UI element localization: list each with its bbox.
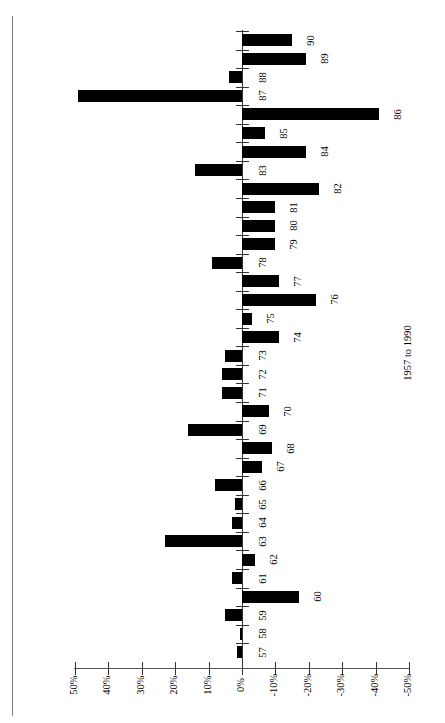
category-axis-tick (236, 365, 249, 366)
category-axis-tick (236, 142, 249, 143)
category-axis-tick (236, 124, 249, 125)
category-axis-tick (236, 643, 249, 644)
category-axis-tick (236, 254, 249, 255)
category-axis-tick (236, 179, 249, 180)
bar (242, 53, 306, 65)
value-axis-tick-label: -40% (369, 665, 383, 705)
category-axis-tick (236, 383, 249, 384)
category-axis-tick (236, 346, 249, 347)
value-axis-tick-label: 20% (168, 665, 182, 705)
category-axis-tick (236, 161, 249, 162)
category-label: 66 (257, 470, 270, 500)
bar (242, 146, 306, 158)
category-axis-tick (236, 291, 249, 292)
bar (222, 368, 242, 380)
category-label: 59 (257, 600, 270, 630)
category-axis-tick (236, 606, 249, 607)
bar (195, 164, 242, 176)
value-axis-tick-label: -10% (268, 665, 282, 705)
category-axis-tick (236, 588, 249, 589)
category-label: 73 (257, 341, 270, 371)
bar (242, 183, 319, 195)
bar (78, 90, 242, 102)
category-label: 69 (257, 415, 270, 445)
category-axis-tick (236, 513, 249, 514)
category-label: 82 (331, 174, 344, 204)
value-axis-tick-label: -20% (302, 665, 316, 705)
bar (242, 294, 316, 306)
category-label: 83 (257, 155, 270, 185)
category-label: 60 (311, 582, 324, 612)
category-label: 90 (305, 25, 318, 55)
category-label: 81 (288, 192, 301, 222)
value-axis-tick-label: 30% (135, 665, 149, 705)
bar (222, 387, 242, 399)
value-axis-tick-label: 0% (235, 665, 249, 705)
category-axis-tick (236, 31, 249, 32)
category-label: 74 (291, 322, 304, 352)
category-axis-tick (236, 235, 249, 236)
category-axis-tick (236, 439, 249, 440)
bar (237, 646, 242, 658)
value-axis-tick-label: -30% (335, 665, 349, 705)
value-axis-tick-label: 50% (68, 665, 82, 705)
category-axis-tick (236, 68, 249, 69)
category-label: 75 (265, 304, 278, 334)
bar (225, 350, 242, 362)
bar (212, 257, 242, 269)
category-label: 88 (257, 62, 270, 92)
bar (232, 517, 242, 529)
category-axis-tick (236, 402, 249, 403)
bar (235, 498, 242, 510)
bar (165, 535, 242, 547)
category-label: 86 (392, 99, 405, 129)
category-axis-tick (236, 458, 249, 459)
category-label: 77 (291, 266, 304, 296)
category-label: 70 (281, 396, 294, 426)
bar (215, 479, 242, 491)
category-label: 84 (318, 137, 331, 167)
category-axis-tick (236, 495, 249, 496)
bar (232, 572, 242, 584)
category-axis-tick (236, 476, 249, 477)
category-label: 78 (257, 248, 270, 278)
category-axis-tick (236, 217, 249, 218)
category-axis-tick (236, 50, 249, 51)
bar (242, 313, 252, 325)
category-axis-tick (236, 272, 249, 273)
value-axis-tick-label: -50% (402, 665, 416, 705)
bar (242, 34, 292, 46)
category-axis-tick (236, 421, 249, 422)
value-axis-tick-label: 40% (101, 665, 115, 705)
bar (242, 201, 275, 213)
bar (229, 71, 242, 83)
category-axis-tick (236, 569, 249, 570)
category-axis-tick (236, 309, 249, 310)
category-label: 68 (285, 433, 298, 463)
category-axis-tick (236, 625, 249, 626)
bar (242, 554, 255, 566)
category-axis-tick (236, 550, 249, 551)
category-label: 85 (278, 118, 291, 148)
chart-plot-area: 50%40%30%20%10%0%-10%-20%-30%-40%-50% 57… (0, 0, 445, 723)
category-axis-tick (236, 87, 249, 88)
bar (242, 220, 275, 232)
category-axis-tick (236, 198, 249, 199)
bar (188, 424, 242, 436)
category-label: 62 (268, 545, 281, 575)
bar (240, 628, 242, 640)
category-label: 89 (318, 44, 331, 74)
zero-axis-line (242, 30, 243, 668)
value-axis-tick-label: 10% (202, 665, 216, 705)
category-axis-tick (236, 105, 249, 106)
bar (242, 127, 265, 139)
bar (225, 609, 242, 621)
category-axis-tick (236, 532, 249, 533)
category-label: 76 (328, 285, 341, 315)
category-axis-tick (236, 328, 249, 329)
bar (242, 591, 299, 603)
